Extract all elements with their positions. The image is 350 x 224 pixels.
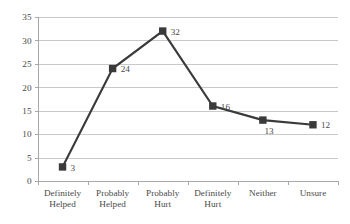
data-point-marker: [109, 65, 116, 72]
data-point-label: 3: [71, 163, 76, 173]
data-point-marker: [309, 121, 316, 128]
y-axis-tick-label: 35: [22, 12, 32, 22]
data-point-marker: [159, 27, 166, 34]
x-axis-category-label: Probably: [146, 188, 180, 198]
data-point-marker: [59, 163, 66, 170]
series-polyline: [63, 31, 313, 167]
data-point-label: 32: [171, 27, 181, 37]
y-axis-tick-label: 5: [27, 153, 32, 163]
axes: [38, 17, 339, 182]
y-axis-tick-label: 10: [22, 129, 32, 139]
line-chart: 05101520253035 32432161312 DefinitelyHel…: [0, 0, 350, 224]
data-point-marker: [259, 116, 266, 123]
x-axis-category-label: Definitely: [194, 188, 232, 198]
x-axis-category-label: Hurt: [204, 199, 221, 209]
data-point-labels: 32432161312: [71, 27, 331, 173]
data-point-label: 12: [321, 120, 331, 130]
data-point-label: 24: [121, 64, 131, 74]
x-axis-category-label: Hurt: [154, 199, 171, 209]
y-axis-tick-label: 20: [22, 83, 32, 93]
y-axis-tick-label: 0: [27, 176, 32, 186]
data-point-marker: [209, 102, 216, 109]
y-axis-tick-label: 25: [22, 59, 32, 69]
gridlines: [38, 18, 339, 182]
x-axis-category-label: Probably: [96, 188, 130, 198]
x-axis-category-label: Definitely: [44, 188, 82, 198]
chart-canvas: 05101520253035 32432161312 DefinitelyHel…: [0, 0, 350, 224]
data-point-label: 13: [264, 126, 274, 136]
y-axis-tick-label: 30: [22, 36, 32, 46]
x-axis-category-label: Unsure: [300, 188, 327, 198]
data-series-line: [63, 31, 313, 167]
y-axis-tick-label: 15: [22, 106, 32, 116]
y-axis-tick-labels: 05101520253035: [22, 12, 32, 186]
y-axis-tick-marks: [35, 18, 38, 182]
x-axis-category-label: Helped: [99, 199, 126, 209]
data-point-label: 16: [221, 102, 231, 112]
x-axis-category-label: Helped: [49, 199, 76, 209]
x-axis-category-labels: DefinitelyHelpedProbablyHelpedProbablyHu…: [44, 188, 326, 210]
x-axis-category-label: Neither: [249, 188, 277, 198]
